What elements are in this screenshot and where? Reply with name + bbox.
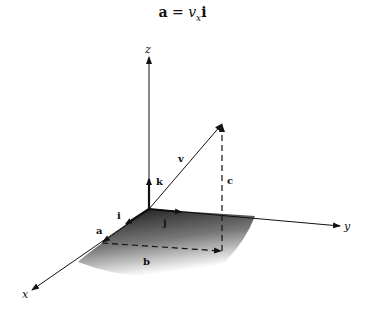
c-label: c [227,175,233,186]
z-axis-label: z [144,43,151,56]
y-axis-label: y [343,220,351,233]
v-vector [149,124,222,209]
v-label: v [177,153,185,164]
j-label: j [162,217,167,228]
b-label: b [143,256,150,267]
a-label: a [96,225,103,236]
x-axis-label: x [22,288,29,301]
vector-diagram: z y x v k c i j a b [0,0,365,314]
k-label: k [156,176,164,187]
i-label: i [117,210,121,221]
